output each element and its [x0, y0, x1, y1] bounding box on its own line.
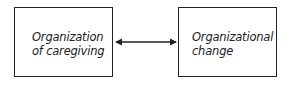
node-label-line: change — [192, 44, 273, 58]
node-label: Organizational change — [192, 30, 273, 58]
node-label: Organization of caregiving — [32, 30, 104, 58]
arrowhead-right-icon — [170, 39, 177, 46]
node-label-line: Organization — [32, 30, 104, 44]
node-label-line: Organizational — [192, 30, 273, 44]
arrowhead-left-icon — [115, 39, 122, 46]
node-organization-of-caregiving: Organization of caregiving — [14, 7, 113, 77]
node-label-line: of caregiving — [32, 44, 104, 58]
node-organizational-change: Organizational change — [178, 7, 277, 77]
bidirectional-arrow — [113, 35, 179, 49]
